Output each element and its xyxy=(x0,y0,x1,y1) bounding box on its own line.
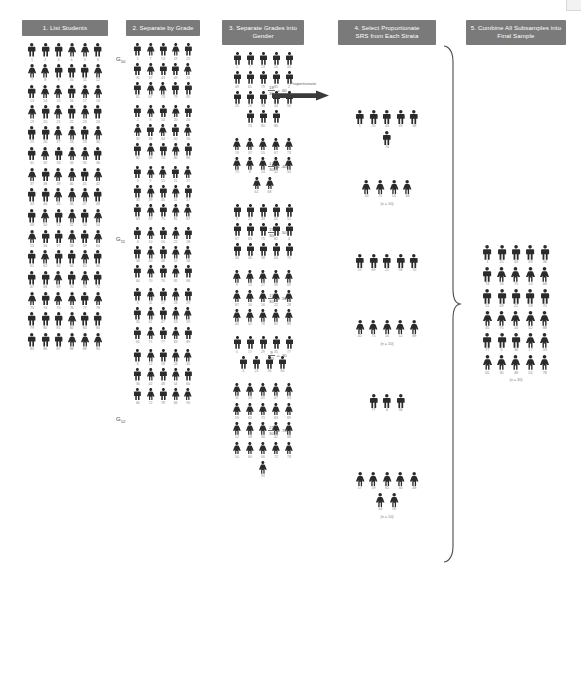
male-figure-icon xyxy=(509,289,523,304)
figure-id-label: 28 xyxy=(182,240,195,245)
figure-id-label: 70 xyxy=(407,268,421,273)
male-figure-icon xyxy=(283,243,296,256)
figure-row: 28142026 xyxy=(126,105,200,123)
gender-stratum-group: 3213345515763758143446586470 xyxy=(222,204,304,261)
figure-id-label: 1 xyxy=(25,58,38,63)
female-figure-icon xyxy=(182,246,195,259)
female-figure-icon xyxy=(65,168,78,182)
male-figure-icon xyxy=(231,336,244,349)
female-figure-icon xyxy=(231,422,244,435)
female-figure-icon xyxy=(144,349,157,362)
figure-id-label: 39 xyxy=(144,198,157,203)
figure-id-label: 29 xyxy=(182,301,195,306)
figure-id-label: 56 xyxy=(283,104,296,109)
figure-icons xyxy=(231,442,296,455)
figure-id-label: 70 xyxy=(65,285,78,290)
female-figure-icon xyxy=(283,270,296,283)
male-figure-icon xyxy=(494,245,508,260)
female-figure-icon xyxy=(373,180,387,194)
male-figure-icon xyxy=(244,336,257,349)
female-figure-icon xyxy=(244,138,257,151)
gender-stratum-group: 1123414753596571838912183042485460667278… xyxy=(222,383,304,479)
male-figure-icon xyxy=(157,105,170,118)
female-figure-icon xyxy=(169,368,182,381)
female-figure-icon xyxy=(169,227,182,240)
figure-row: 3339455157 xyxy=(126,185,200,203)
figure-labels: 17132543 xyxy=(231,65,296,70)
female-figure-icon xyxy=(91,333,104,347)
figure-id-label: 75 xyxy=(509,282,523,287)
figure-id-label: 59 xyxy=(182,320,195,325)
column-list-students: 1. List Students 12345678910111213141516… xyxy=(22,20,108,354)
female-figure-icon xyxy=(144,105,157,118)
male-figure-icon xyxy=(39,105,52,119)
figure-row: 8710162228 xyxy=(222,290,304,308)
male-figure-icon xyxy=(480,333,494,348)
female-figure-icon xyxy=(257,403,270,416)
figure-row: 6268 xyxy=(222,177,304,195)
figure-id-label: 16 xyxy=(157,240,170,245)
figure-id-label: 30 xyxy=(182,362,195,367)
figure-id-label: 43 xyxy=(25,202,38,207)
figure-id-label: 9 xyxy=(144,179,157,184)
figure-id-label: 12 xyxy=(91,78,104,83)
figure-id-label: 22 xyxy=(509,304,523,309)
male-figure-icon xyxy=(367,394,381,408)
figure-id-label: 45 xyxy=(480,326,494,331)
male-figure-icon xyxy=(257,71,270,84)
figure-id-label: 58 xyxy=(182,259,195,264)
female-figure-icon xyxy=(380,320,394,334)
figure-id-label: 11 xyxy=(78,78,91,83)
male-figure-icon xyxy=(91,250,104,264)
female-figure-icon xyxy=(182,204,195,217)
female-figure-icon xyxy=(401,180,415,194)
figure-id-label: 20 xyxy=(39,120,52,125)
figure-id-label: 49 xyxy=(231,85,244,90)
figure-id-label: 68 xyxy=(401,194,415,199)
figure-labels: 1937556773 xyxy=(231,151,296,156)
figure-id-label: 51 xyxy=(283,217,296,222)
figure-id-label: 38 xyxy=(407,124,421,129)
male-figure-icon xyxy=(132,63,145,76)
figure-id-label: 40 xyxy=(144,259,157,264)
figure-id-label: 75 xyxy=(157,217,170,222)
figure-id-label: 55 xyxy=(25,244,38,249)
figure-id-label: 19 xyxy=(169,57,182,62)
figure-id-label: 87 xyxy=(52,347,65,352)
figure-id-label: 14 xyxy=(39,99,52,104)
female-figure-icon xyxy=(39,64,52,78)
male-figure-icon xyxy=(78,312,91,326)
male-figure-icon xyxy=(157,327,170,340)
male-figure-icon xyxy=(91,43,104,57)
figure-id-label: 35 xyxy=(132,320,145,325)
figure-id-label: 69 xyxy=(52,285,65,290)
figure-id-label: 38 xyxy=(257,104,270,109)
female-figure-icon xyxy=(270,442,283,455)
male-figure-icon xyxy=(538,289,552,304)
figure-id-label: 82 xyxy=(169,279,182,284)
figure-id-label: 75 xyxy=(494,326,508,331)
male-figure-icon xyxy=(132,265,145,278)
column-1-header: 1. List Students xyxy=(22,20,108,36)
figure-id-label: 60 xyxy=(244,455,257,460)
female-figure-icon xyxy=(169,185,182,198)
female-figure-icon xyxy=(263,177,276,190)
figure-id-label: 90 xyxy=(91,347,104,352)
female-figure-icon xyxy=(52,126,65,140)
figure-id-label: 46 xyxy=(65,202,78,207)
male-figure-icon xyxy=(394,254,408,268)
figure-id-label: 69 xyxy=(144,217,157,222)
figure-labels: 4575105288 xyxy=(353,334,421,339)
male-figure-icon xyxy=(78,126,91,140)
male-figure-icon xyxy=(380,131,394,145)
figure-labels: 3642485460 xyxy=(132,382,195,387)
female-figure-icon xyxy=(394,320,408,334)
figure-labels: 125434938 xyxy=(353,124,421,129)
figure-labels: 410162228 xyxy=(132,240,195,245)
male-figure-icon xyxy=(132,43,145,56)
figure-row: 123456 xyxy=(22,43,108,62)
male-figure-icon xyxy=(283,336,296,349)
figure-icons xyxy=(244,110,283,123)
female-figure-icon xyxy=(182,307,195,320)
figure-id-label: 59 xyxy=(231,416,244,421)
